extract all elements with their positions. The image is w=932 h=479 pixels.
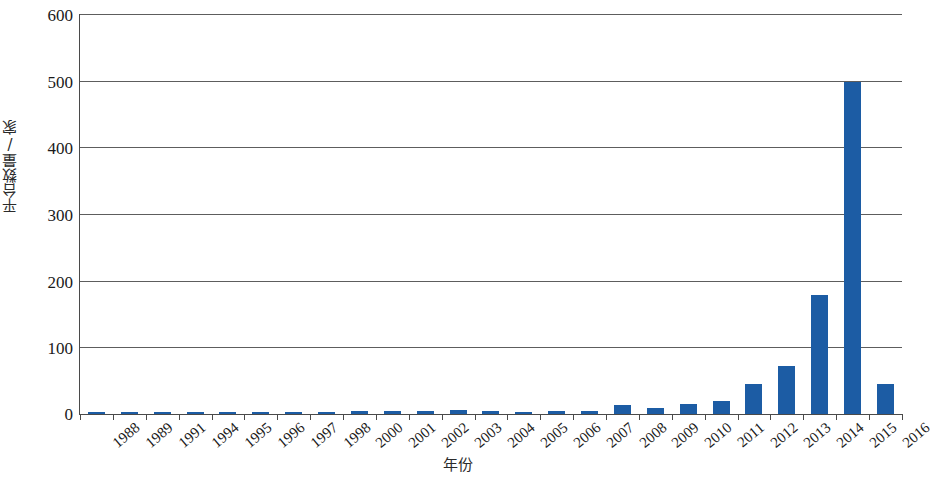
bar-slot — [179, 14, 212, 414]
bar — [877, 384, 894, 414]
bar-slot — [836, 14, 869, 414]
bar-slot — [540, 14, 573, 414]
bar-slot — [113, 14, 146, 414]
bar-slot — [277, 14, 310, 414]
x-axis-tick-label: 1989 — [143, 420, 176, 451]
x-axis-tick-label: 2009 — [669, 420, 702, 451]
y-axis-tick-label: 600 — [48, 7, 74, 24]
bar — [680, 404, 697, 414]
y-axis-tick-label: 200 — [48, 273, 74, 290]
x-axis-tick-label: 2001 — [406, 420, 439, 451]
bar-slot — [146, 14, 179, 414]
x-axis-tick-label: 1998 — [341, 420, 374, 451]
x-axis-tick-label: 1996 — [275, 420, 308, 451]
bar-slot — [705, 14, 738, 414]
bar-slot — [869, 14, 902, 414]
y-axis-tick-label: 100 — [48, 340, 74, 357]
bar-slot — [475, 14, 508, 414]
y-axis-tick-label: 0 — [65, 406, 74, 423]
bar-slot — [573, 14, 606, 414]
bar-slot — [606, 14, 639, 414]
x-axis-tick-labels: 1988198919911994199519961997199820002001… — [79, 420, 901, 460]
bar-slot — [244, 14, 277, 414]
x-axis-tick-label: 2010 — [702, 420, 735, 451]
y-axis-tick-label: 300 — [48, 207, 74, 224]
x-axis-tick-label: 2004 — [505, 420, 538, 451]
x-axis-title: 年份 — [0, 456, 915, 474]
x-axis-tick-label: 2005 — [538, 420, 571, 451]
y-axis-title: 平台数量/家 — [2, 120, 26, 213]
x-axis-tick-label: 1994 — [209, 420, 242, 451]
x-axis-tick-label: 1995 — [242, 420, 275, 451]
x-axis-tick-label: 1997 — [308, 420, 341, 451]
x-axis-tick-label: 2012 — [768, 420, 801, 451]
bar-slot — [212, 14, 245, 414]
y-axis-tick-label: 500 — [48, 73, 74, 90]
bar-slot — [507, 14, 540, 414]
plot-area: 0100200300400500600 — [79, 14, 902, 415]
x-axis-tick-label: 2000 — [373, 420, 406, 451]
bar-slot — [343, 14, 376, 414]
x-axis-tick-label: 2016 — [900, 420, 932, 451]
bar-slot — [442, 14, 475, 414]
bar-slot — [672, 14, 705, 414]
x-axis-tick — [902, 414, 903, 420]
bar-slot — [738, 14, 771, 414]
x-axis-tick-label: 2013 — [801, 420, 834, 451]
bar-slot — [639, 14, 672, 414]
x-axis-tick-label: 2015 — [867, 420, 900, 451]
bar-slot — [409, 14, 442, 414]
bar-slot — [310, 14, 343, 414]
bar — [713, 401, 730, 414]
x-axis-tick-label: 2007 — [604, 420, 637, 451]
y-axis-tick-label: 400 — [48, 140, 74, 157]
bar-slot — [80, 14, 113, 414]
bar-slot — [770, 14, 803, 414]
x-axis-tick-label: 2008 — [637, 420, 670, 451]
bar-slot — [803, 14, 836, 414]
x-axis-tick-label: 2006 — [571, 420, 604, 451]
bar — [844, 82, 861, 414]
bar — [745, 384, 762, 414]
bar — [778, 366, 795, 414]
bar-slot — [376, 14, 409, 414]
x-axis-tick-label: 2011 — [735, 420, 767, 450]
bar — [614, 405, 631, 414]
bars-group — [80, 14, 902, 414]
bar — [811, 295, 828, 414]
x-axis-tick-label: 1991 — [176, 420, 209, 451]
x-axis-tick-label: 2002 — [439, 420, 472, 451]
x-axis-tick-label: 2003 — [472, 420, 505, 451]
x-axis-tick-label: 2014 — [834, 420, 867, 451]
x-axis-tick-label: 1988 — [110, 420, 143, 451]
